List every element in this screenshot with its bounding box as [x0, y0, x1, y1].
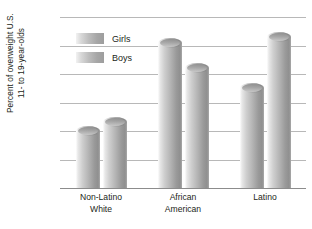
x-axis-label-0: Non-LatinoWhite	[60, 192, 142, 215]
legend-label-boys: Boys	[112, 53, 132, 63]
legend-item-girls: Girls	[76, 32, 132, 45]
bar-girls-1	[158, 43, 182, 188]
gridline-0	[60, 188, 306, 189]
y-axis-title-line-2: 11- to 19-year-olds	[16, 0, 27, 153]
legend-item-boys: Boys	[76, 51, 132, 64]
bar-girls-2	[240, 88, 264, 188]
bar-chart: Percent of overweight U.S. 11- to 19-yea…	[0, 0, 312, 229]
bar-cap-shade	[269, 33, 289, 41]
x-axis-labels: Non-LatinoWhiteAfricanAmericanLatino	[60, 192, 306, 226]
bar-cap-shade	[78, 127, 98, 135]
bar-boys-0	[103, 122, 127, 188]
bar-group	[158, 17, 209, 188]
bar-cap-shade	[160, 39, 180, 47]
y-axis-title: Percent of overweight U.S. 11- to 19-yea…	[5, 0, 27, 153]
x-axis-label-2: Latino	[224, 192, 306, 204]
x-axis-label-1: AfricanAmerican	[142, 192, 224, 215]
legend-swatch-boys	[76, 52, 104, 63]
legend-label-girls: Girls	[112, 34, 131, 44]
legend: Girls Boys	[76, 32, 132, 70]
bar-boys-1	[185, 68, 209, 188]
bar-boys-2	[267, 37, 291, 188]
bar-girls-0	[76, 131, 100, 188]
bar-group	[240, 17, 291, 188]
legend-swatch-girls	[76, 33, 104, 44]
y-axis-title-line-1: Percent of overweight U.S.	[5, 0, 16, 153]
